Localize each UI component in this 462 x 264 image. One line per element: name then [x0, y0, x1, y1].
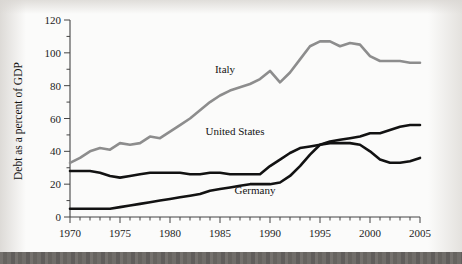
series-label-italy: Italy [215, 63, 236, 75]
line-chart: 020406080100120 197019751980198519901995… [0, 0, 462, 264]
x-tick-label: 2005 [409, 227, 432, 239]
y-tick-label: 40 [50, 145, 62, 157]
y-tick-label: 60 [50, 113, 62, 125]
x-axis: 19701975198019851990199520002005 [59, 217, 432, 239]
series-line-italy [70, 41, 420, 162]
y-tick-label: 20 [50, 178, 62, 190]
x-tick-label: 1990 [259, 227, 282, 239]
y-tick-label: 0 [56, 211, 62, 223]
y-tick-label: 120 [45, 14, 62, 26]
series-line-united-states [70, 143, 420, 177]
x-tick-label: 1975 [109, 227, 132, 239]
y-axis: 020406080100120 [45, 14, 71, 223]
x-tick-label: 1995 [309, 227, 332, 239]
series-line-germany [70, 125, 420, 209]
x-tick-label: 2000 [359, 227, 382, 239]
y-tick-label: 80 [50, 80, 62, 92]
page-bottom-strip [0, 252, 462, 264]
y-axis-title: Debt as a percent of GDP [12, 62, 25, 180]
series-label-united-states: United States [206, 125, 265, 137]
series-label-germany: Germany [235, 184, 276, 196]
x-tick-label: 1980 [159, 227, 182, 239]
series-annotations: ItalyUnited StatesGermany [206, 63, 276, 196]
y-tick-label: 100 [45, 47, 62, 59]
bottom-strip-texture [0, 252, 462, 264]
x-tick-label: 1970 [59, 227, 82, 239]
figure-container: 020406080100120 197019751980198519901995… [0, 0, 462, 264]
x-tick-label: 1985 [209, 227, 232, 239]
